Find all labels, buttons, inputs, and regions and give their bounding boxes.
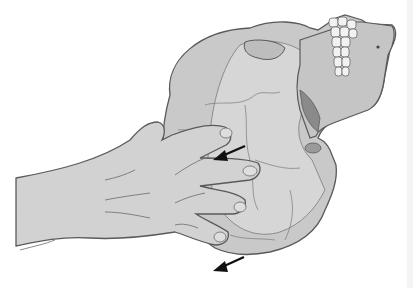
illustration [0,0,413,288]
skull-hand-illustration [0,0,413,288]
right-edge-strip [407,0,413,288]
lower-arrow-icon [213,257,244,272]
